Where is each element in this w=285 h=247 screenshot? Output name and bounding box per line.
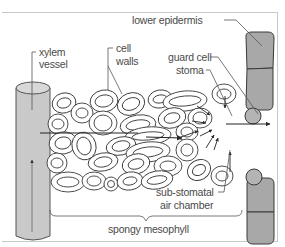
xylem-vessel <box>16 82 50 240</box>
label-lower-epidermis: lower epidermis <box>132 14 203 26</box>
label-stoma: stoma <box>176 64 204 76</box>
leaf-cross-section <box>0 0 285 247</box>
label-spongy-mesophyll: spongy mesophyll <box>108 223 189 235</box>
label-vessel: vessel <box>39 58 68 70</box>
label-air-chamber: air chamber <box>160 199 213 211</box>
guard-cell-lower <box>246 169 262 185</box>
label-xylem: xylem <box>39 46 65 58</box>
mesophyll-bracket <box>50 210 242 221</box>
label-cell: cell <box>116 42 131 54</box>
lower-epidermis-cells <box>246 32 274 244</box>
guard-cell-upper <box>245 108 261 124</box>
mesophyll-cells <box>47 84 236 192</box>
label-sub-stomatal: sub-stomatal <box>156 186 214 198</box>
label-guard-cell: guard cell <box>168 51 212 63</box>
label-walls: walls <box>116 55 138 67</box>
